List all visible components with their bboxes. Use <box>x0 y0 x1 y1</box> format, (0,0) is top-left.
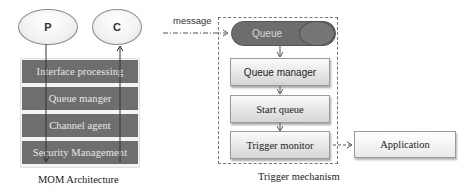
connector-lines <box>0 0 475 196</box>
